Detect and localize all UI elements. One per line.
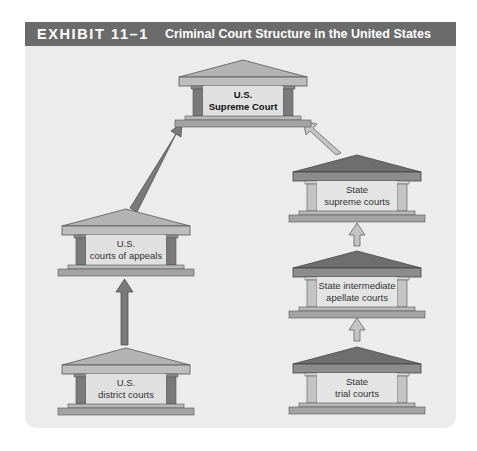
arrow-trial-to-intermediate	[349, 318, 365, 341]
us-supreme-court-line2: Supreme Court	[209, 101, 278, 112]
state-intermediate-appellate-courts: State intermediate apellate courts	[289, 251, 425, 318]
arrow-appeals-to-supreme	[130, 123, 182, 212]
us-courts-of-appeals-line1: U.S.	[117, 238, 135, 249]
state-supreme-courts: State supreme courts	[289, 155, 425, 222]
arrow-intermediate-to-state-supreme	[349, 223, 365, 246]
court-structure-diagram: U.S. Supreme Court U.S. courts of appeal…	[0, 0, 477, 451]
us-district-courts-line1: U.S.	[117, 377, 135, 388]
us-courts-of-appeals-line2: courts of appeals	[90, 250, 163, 261]
us-district-courts-line2: district courts	[98, 389, 154, 400]
us-supreme-court: U.S. Supreme Court	[175, 60, 311, 127]
arrow-district-to-appeals	[116, 279, 133, 345]
state-supreme-courts-line1: State	[346, 184, 368, 195]
us-courts-of-appeals: U.S. courts of appeals	[58, 209, 194, 276]
us-district-courts: U.S. district courts	[58, 348, 194, 415]
state-supreme-courts-line2: supreme courts	[324, 196, 390, 207]
state-intermediate-line2: apellate courts	[326, 292, 388, 303]
state-trial-courts-line1: State	[346, 376, 368, 387]
state-intermediate-line1: State intermediate	[318, 280, 395, 291]
state-trial-courts: State trial courts	[289, 347, 425, 414]
us-supreme-court-line1: U.S.	[234, 89, 252, 100]
state-trial-courts-line2: trial courts	[335, 388, 379, 399]
